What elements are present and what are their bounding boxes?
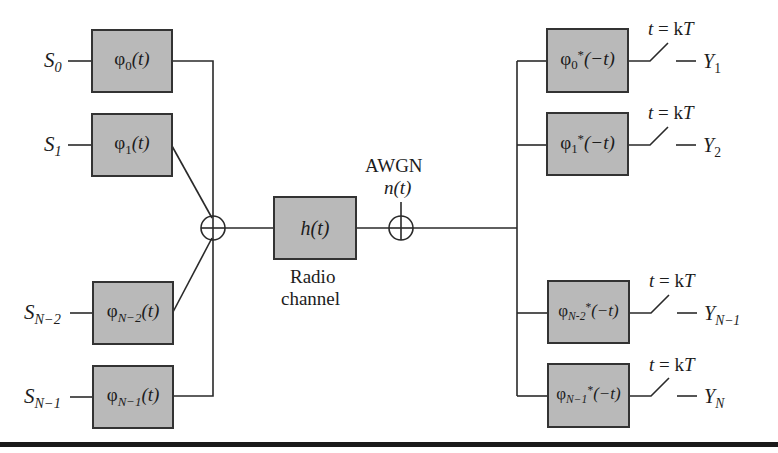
sampler-switch-1 (628, 127, 696, 145)
input-label-1: S1 (44, 132, 62, 160)
sampler-switch-3 (629, 378, 697, 396)
rx-filter-2: φN-2*(−t) (547, 280, 630, 344)
bottom-rule (0, 442, 778, 447)
awgn-label: AWGN (365, 155, 423, 177)
channel-box: h(t) (273, 196, 357, 260)
sampler-label-3: t = kT (649, 354, 695, 376)
tx-wire-0 (172, 61, 213, 216)
input-label-0: S0 (44, 48, 62, 76)
tx-filter-0: φ0(t) (91, 29, 173, 93)
rx-filter-0: φ0*(−t) (546, 28, 629, 93)
sampler-switch-2 (629, 295, 697, 313)
rx-filter-1: φ1*(−t) (546, 112, 629, 176)
tx-filter-2: φN−2(t) (92, 281, 174, 345)
noise-signal-label: n(t) (384, 177, 411, 199)
tx-wire-2 (173, 238, 212, 312)
sampler-switch-0 (628, 43, 696, 61)
channel-caption-line2: channel (281, 288, 340, 310)
output-label-0: Y1 (703, 50, 721, 77)
sampler-label-2: t = kT (649, 270, 695, 292)
tx-filter-3: φN−1(t) (92, 365, 174, 429)
output-label-1: Y2 (703, 134, 721, 161)
sampler-label-1: t = kT (648, 102, 694, 124)
rx-filter-3: φN−1*(−t) (547, 363, 630, 428)
input-label-3: SN−1 (24, 384, 61, 412)
input-label-2: SN−2 (24, 300, 61, 328)
output-label-3: YN (704, 385, 724, 412)
sampler-label-0: t = kT (648, 18, 694, 40)
channel-caption-line1: Radio (290, 266, 335, 288)
tx-wire-1 (172, 146, 212, 218)
output-label-2: YN−1 (704, 302, 740, 329)
tx-wire-3 (173, 240, 213, 396)
tx-filter-1: φ1(t) (91, 113, 173, 177)
